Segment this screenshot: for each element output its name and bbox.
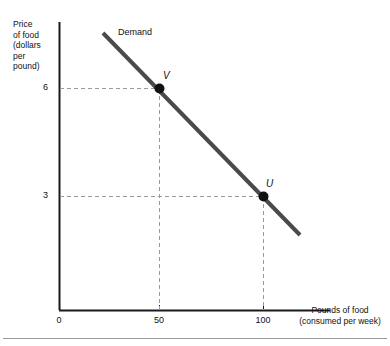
data-point-u-label: U [266, 178, 273, 189]
data-point-u-marker [259, 192, 269, 202]
chart-canvas [0, 0, 390, 346]
x-tick-label-50: 50 [149, 315, 169, 325]
demand-curve-line [103, 33, 300, 235]
y-axis-title: Price of food (dollars per pound) [13, 19, 57, 72]
demand-curve-figure: Price of food (dollars per pound) Pounds… [0, 0, 390, 346]
x-axis-title: Pounds of food (consumed per week) [292, 305, 388, 326]
x-tick-label-0: 0 [49, 315, 69, 325]
demand-curve-label: Demand [118, 27, 152, 37]
data-point-v-marker [155, 84, 165, 94]
x-tick-label-100: 100 [252, 315, 274, 325]
data-point-v-label: V [163, 70, 170, 81]
y-tick-label-3: 3 [28, 190, 48, 200]
bottom-divider-rule [3, 338, 387, 339]
y-tick-label-6: 6 [28, 82, 48, 92]
